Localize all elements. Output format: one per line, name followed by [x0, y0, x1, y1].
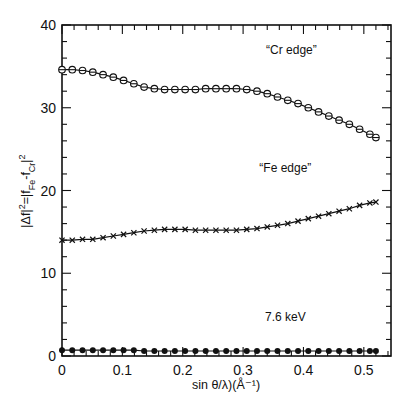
series-x	[59, 199, 378, 242]
data-series	[59, 66, 380, 354]
annotation-label: “Cr edge”	[266, 43, 317, 57]
annotations: “Cr edge”“Fe edge”7.6 keV	[259, 43, 316, 324]
y-tick-label: 20	[40, 183, 56, 199]
line-chart: 00.10.20.30.40.5010203040 “Cr edge”“Fe e…	[0, 0, 411, 419]
y-tick-label: 10	[40, 265, 56, 281]
x-tick-label: 0.4	[294, 362, 314, 378]
x-tick-label: 0.1	[113, 362, 133, 378]
y-tick-label: 30	[40, 100, 56, 116]
x-tick-label: 0	[58, 362, 66, 378]
series-open-circle	[59, 66, 380, 140]
x-axis-label: sin θ/λ)(Å⁻¹)	[192, 377, 260, 392]
x-tick-label: 0.3	[233, 362, 253, 378]
x-tick-label: 0.2	[173, 362, 193, 378]
y-tick-label: 0	[48, 348, 56, 364]
annotation-label: 7.6 keV	[265, 310, 306, 324]
svg-text:|Δf|2=|fFe-fCr|2: |Δf|2=|fFe-fCr|2	[17, 154, 37, 227]
y-axis-label: |Δf|2=|fFe-fCr|2	[17, 154, 37, 227]
annotation-label: “Fe edge”	[259, 161, 311, 175]
y-tick-label: 40	[40, 17, 56, 33]
x-tick-label: 0.5	[354, 362, 374, 378]
